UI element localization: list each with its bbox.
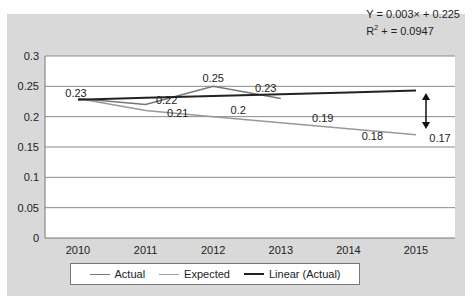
legend-item-expected: Expected [159,268,230,280]
y-tick-label: 0.15 [18,141,39,153]
data-label: 0.23 [255,82,276,94]
y-tick-label: 0.3 [24,50,39,62]
x-tick-label: 2010 [66,244,90,256]
y-tick-label: 0 [33,232,39,244]
x-tick-label: 2011 [134,244,158,256]
x-tick-label: 2015 [404,244,428,256]
plot-area: 00.050.10.150.20.250.3 20102011201220132… [0,0,472,297]
y-tick-label: 0.05 [18,202,39,214]
data-label: 0.21 [167,107,188,119]
legend: Actual Expected Linear (Actual) [70,263,360,285]
legend-item-actual: Actual [90,268,146,280]
x-tick-label: 2013 [269,244,293,256]
data-label: 0.22 [156,94,177,106]
x-tick-label: 2014 [336,244,360,256]
data-label: 0.2 [231,104,246,116]
x-tick-labels: 201020112012201320142015 [66,244,428,256]
data-label: 0.18 [362,130,383,142]
y-tick-label: 0.2 [24,111,39,123]
legend-item-linear: Linear (Actual) [244,268,341,280]
legend-swatch-actual [90,274,110,275]
legend-swatch-linear [244,273,264,275]
data-label: 0.25 [202,72,223,84]
data-label: 0.19 [312,112,333,124]
y-tick-label: 0.25 [18,80,39,92]
data-label: 0.17 [429,132,450,144]
y-tick-labels: 00.050.10.150.20.250.3 [18,50,39,244]
legend-swatch-expected [159,274,179,275]
x-tick-label: 2012 [201,244,225,256]
y-tick-label: 0.1 [24,171,39,183]
data-label: 0.23 [65,87,86,99]
